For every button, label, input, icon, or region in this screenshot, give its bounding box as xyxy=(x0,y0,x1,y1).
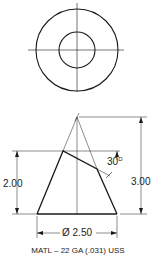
construction-line-right xyxy=(77,117,97,169)
arrow-dia-right xyxy=(111,231,117,235)
dim-label-angle: 30D xyxy=(107,156,123,167)
arrow-3-bottom xyxy=(139,208,143,214)
front-view xyxy=(12,113,147,238)
construction-line-left xyxy=(63,117,77,151)
arrow-3-top xyxy=(139,117,143,123)
angle-value: 30 xyxy=(107,156,119,167)
angle-arrow xyxy=(106,172,112,178)
material-note: MATL – 22 GA (.031) USS xyxy=(31,246,124,255)
dim-label-cut-height: 2.00 xyxy=(3,178,23,189)
top-view xyxy=(28,3,124,92)
angle-unit: D xyxy=(118,156,123,162)
arrow-2-top xyxy=(15,151,19,157)
dim-label-total-height: 3.00 xyxy=(131,176,151,187)
technical-drawing: 2.00 3.00 30D Ø 2.50 MATL – 22 GA (.031)… xyxy=(0,0,157,264)
arrow-2-bottom xyxy=(15,208,19,214)
arrowheads xyxy=(15,117,143,235)
arrow-dia-left xyxy=(37,231,43,235)
dim-label-base-diameter: Ø 2.50 xyxy=(62,227,92,238)
